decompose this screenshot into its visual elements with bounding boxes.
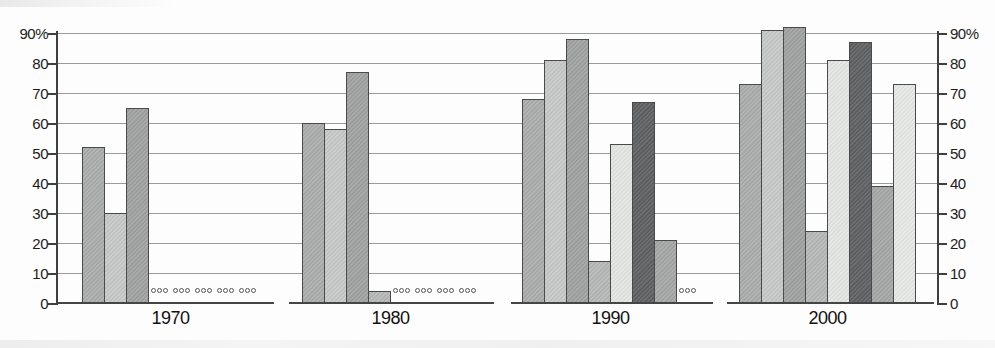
bar-2000-series-4 bbox=[805, 231, 828, 303]
right-tick-label-0: 0 bbox=[950, 296, 990, 311]
bar-1990-series-5 bbox=[610, 144, 633, 303]
bar-1990-series-6 bbox=[632, 102, 655, 303]
missing-dot bbox=[421, 288, 426, 293]
right-tick-label-50: 50 bbox=[950, 146, 990, 161]
left-tick-90 bbox=[48, 33, 56, 35]
missing-dot bbox=[685, 288, 690, 293]
left-tick-label-50: 50 bbox=[8, 146, 48, 161]
bar-2000-series-5 bbox=[827, 60, 850, 303]
missing-dot bbox=[415, 288, 420, 293]
right-tick-50 bbox=[939, 153, 947, 155]
left-axis bbox=[56, 31, 58, 305]
left-tick-40 bbox=[48, 183, 56, 185]
baseline-2000 bbox=[727, 302, 934, 304]
missing-dot bbox=[223, 288, 228, 293]
right-tick-label-70: 70 bbox=[950, 86, 990, 101]
right-tick-10 bbox=[939, 273, 947, 275]
missing-dot bbox=[405, 288, 410, 293]
bar-2000-series-7 bbox=[871, 186, 894, 303]
missing-dot bbox=[443, 288, 448, 293]
bar-2000-series-1 bbox=[739, 84, 762, 303]
missing-dot bbox=[691, 288, 696, 293]
missing-dot bbox=[185, 288, 190, 293]
right-tick-80 bbox=[939, 63, 947, 65]
baseline-1990 bbox=[511, 302, 713, 304]
left-tick-label-40: 40 bbox=[8, 176, 48, 191]
right-axis bbox=[937, 31, 939, 305]
bar-1990-series-7 bbox=[654, 240, 677, 303]
missing-dot bbox=[437, 288, 442, 293]
left-tick-label-70: 70 bbox=[8, 86, 48, 101]
scan-artifact-bottom bbox=[0, 340, 995, 348]
missing-dot bbox=[459, 288, 464, 293]
missing-dot bbox=[679, 288, 684, 293]
bar-1970-series-2 bbox=[104, 213, 127, 303]
bar-1990-series-4 bbox=[588, 261, 611, 303]
missing-data-marker bbox=[393, 287, 410, 293]
missing-dot bbox=[217, 288, 222, 293]
bar-chart-canvas: 90%8070605040302010090%80706050403020100… bbox=[0, 0, 995, 348]
missing-dot bbox=[251, 288, 256, 293]
left-tick-10 bbox=[48, 273, 56, 275]
missing-dot bbox=[173, 288, 178, 293]
missing-dot bbox=[157, 288, 162, 293]
right-tick-20 bbox=[939, 243, 947, 245]
missing-data-marker bbox=[151, 287, 168, 293]
missing-dot bbox=[393, 288, 398, 293]
missing-dot bbox=[245, 288, 250, 293]
bar-2000-series-2 bbox=[761, 30, 784, 303]
missing-data-marker bbox=[679, 287, 696, 293]
missing-dot bbox=[471, 288, 476, 293]
bar-1990-series-1 bbox=[522, 99, 545, 303]
category-label-1990: 1990 bbox=[522, 308, 699, 328]
right-tick-70 bbox=[939, 93, 947, 95]
missing-data-marker bbox=[459, 287, 476, 293]
right-tick-60 bbox=[939, 123, 947, 125]
missing-data-marker bbox=[195, 287, 212, 293]
bar-1970-series-3 bbox=[126, 108, 149, 303]
missing-dot bbox=[207, 288, 212, 293]
right-tick-90 bbox=[939, 33, 947, 35]
right-tick-30 bbox=[939, 213, 947, 215]
missing-dot bbox=[195, 288, 200, 293]
missing-dot bbox=[427, 288, 432, 293]
left-tick-label-20: 20 bbox=[8, 236, 48, 251]
bar-2000-series-6 bbox=[849, 42, 872, 303]
bar-1980-series-2 bbox=[324, 129, 347, 303]
missing-dot bbox=[179, 288, 184, 293]
missing-data-marker bbox=[239, 287, 256, 293]
bar-1990-series-3 bbox=[566, 39, 589, 303]
missing-data-marker bbox=[217, 287, 234, 293]
bar-1970-series-1 bbox=[82, 147, 105, 303]
right-tick-label-30: 30 bbox=[950, 206, 990, 221]
left-tick-80 bbox=[48, 63, 56, 65]
left-tick-label-60: 60 bbox=[8, 116, 48, 131]
left-tick-0 bbox=[48, 303, 56, 305]
missing-dot bbox=[449, 288, 454, 293]
bar-2000-series-8 bbox=[893, 84, 916, 303]
baseline-1970 bbox=[57, 302, 274, 304]
left-tick-50 bbox=[48, 153, 56, 155]
missing-dot bbox=[465, 288, 470, 293]
missing-dot bbox=[239, 288, 244, 293]
left-tick-20 bbox=[48, 243, 56, 245]
right-tick-label-40: 40 bbox=[950, 176, 990, 191]
category-label-2000: 2000 bbox=[739, 308, 916, 328]
missing-dot bbox=[229, 288, 234, 293]
right-tick-label-90: 90% bbox=[950, 26, 990, 41]
left-tick-label-90: 90% bbox=[8, 26, 48, 41]
missing-dot bbox=[399, 288, 404, 293]
right-tick-0 bbox=[939, 303, 947, 305]
missing-data-marker bbox=[437, 287, 454, 293]
baseline-1980 bbox=[289, 302, 494, 304]
left-tick-70 bbox=[48, 93, 56, 95]
bar-1980-series-1 bbox=[302, 123, 325, 303]
missing-dot bbox=[151, 288, 156, 293]
right-tick-label-80: 80 bbox=[950, 56, 990, 71]
left-tick-30 bbox=[48, 213, 56, 215]
category-label-1980: 1980 bbox=[302, 308, 479, 328]
bar-2000-series-3 bbox=[783, 27, 806, 303]
category-label-1970: 1970 bbox=[82, 308, 259, 328]
missing-data-marker bbox=[415, 287, 432, 293]
left-tick-label-0: 0 bbox=[8, 296, 48, 311]
